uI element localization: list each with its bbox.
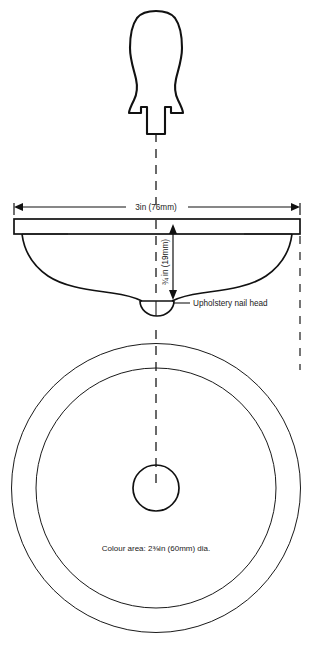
dish-profile-left [22, 234, 142, 301]
technical-diagram: 3in (76mm) ¾ in (19mm) Upholstery nail h… [0, 0, 312, 658]
plan-center-circle [133, 465, 179, 511]
width-arrow-left-icon [14, 203, 23, 211]
width-dimension-label: 3in (76mm) [135, 203, 177, 212]
depth-dimension-label: ¾ in (19mm) [161, 239, 170, 285]
width-arrow-right-icon [291, 203, 300, 211]
nail-head-callout-label: Upholstery nail head [193, 299, 268, 308]
diagram-canvas: 3in (76mm) ¾ in (19mm) Upholstery nail h… [0, 0, 312, 658]
plan-middle-circle [36, 368, 276, 608]
dish-profile-right [172, 234, 292, 301]
rim-bar-outline [14, 219, 300, 234]
awl-tool-outline [129, 11, 183, 134]
depth-arrow-up-icon [169, 224, 177, 234]
nail-head-dome [140, 301, 174, 316]
colour-area-label: Colour area: 2⅜in (60mm) dia. [102, 544, 211, 553]
